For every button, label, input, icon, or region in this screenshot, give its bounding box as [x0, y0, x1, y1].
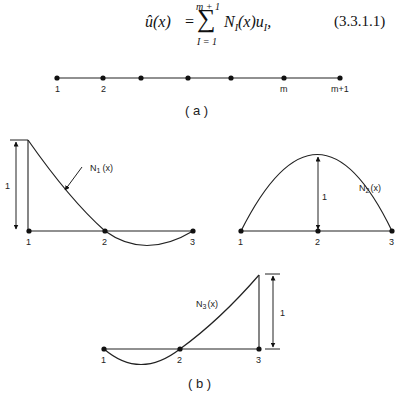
plot-n2: 1 N2(x) 1 2 3: [238, 155, 395, 248]
function-label: N3(x): [196, 299, 218, 310]
leader-arrow: [65, 167, 82, 190]
mesh-node: [138, 75, 143, 80]
caption-b: ( b ): [188, 376, 211, 391]
node: [389, 228, 394, 233]
node: [315, 228, 320, 233]
node-label: 2: [315, 237, 320, 247]
plot-n3: 1 N3(x) 1 2 3: [101, 274, 285, 365]
height-label: 1: [322, 192, 327, 202]
node-label: 2: [177, 355, 182, 365]
mesh-node: [54, 75, 59, 80]
node-label: 1: [26, 237, 31, 247]
node: [190, 228, 195, 233]
height-label: 1: [280, 308, 285, 318]
node-label: m: [280, 84, 288, 94]
node-label: 1: [55, 84, 60, 94]
shape-function-curve: [28, 140, 193, 246]
caption-a: ( a ): [185, 103, 208, 118]
figure-a-mesh: 1 2 m m+1 ( a ): [54, 75, 348, 118]
node-label: 1: [238, 237, 243, 247]
figure-canvas: 1 2 m m+1 ( a ) 1 N1(x) 1 2 3 1 N2(x) 1 …: [0, 0, 409, 398]
node: [102, 228, 107, 233]
node-label: 2: [101, 84, 106, 94]
function-label: N1(x): [90, 163, 113, 174]
node-label: 2: [102, 237, 107, 247]
function-label: N2(x): [359, 183, 381, 194]
mesh-node: [228, 75, 233, 80]
height-label: 1: [5, 181, 10, 191]
node-label: 3: [389, 237, 394, 247]
node: [101, 346, 106, 351]
mesh-node: [185, 75, 190, 80]
mesh-node: [100, 75, 105, 80]
node-label: m+1: [331, 84, 349, 94]
mesh-node: [337, 75, 342, 80]
node-label: 3: [190, 237, 195, 247]
mesh-node: [281, 75, 286, 80]
node: [256, 346, 261, 351]
node: [238, 228, 243, 233]
node: [26, 228, 31, 233]
node-label: 3: [256, 355, 261, 365]
node-label: 1: [101, 355, 106, 365]
plot-n1: 1 N1(x) 1 2 3: [5, 140, 196, 247]
node: [177, 346, 182, 351]
